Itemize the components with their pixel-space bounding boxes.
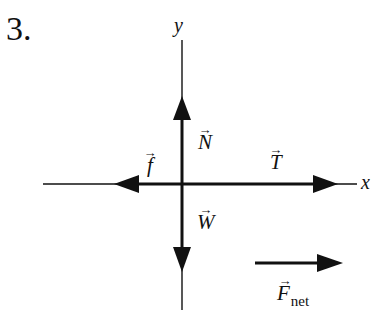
- net-force-subscript: net: [291, 293, 309, 309]
- x-axis-label: x: [361, 172, 370, 192]
- y-axis-label: y: [174, 15, 183, 35]
- vector-arrow-icon: →: [269, 143, 282, 156]
- vector-arrow-icon: →: [143, 146, 156, 159]
- tension-force-arrow: [182, 175, 338, 193]
- normal-force-arrow: [173, 96, 191, 184]
- problem-number: 3.: [6, 12, 32, 46]
- vector-arrow-icon: →: [199, 203, 212, 216]
- weight-force-label: → W: [197, 212, 215, 233]
- friction-force-arrow: [114, 175, 182, 193]
- net-force-label: → Fnet: [277, 283, 309, 309]
- weight-force-arrow: [173, 184, 191, 272]
- tension-force-label: → T: [270, 152, 282, 173]
- net-force-arrow: [255, 254, 343, 272]
- vector-arrow-icon: →: [199, 123, 212, 136]
- free-body-diagram: 3. y x → N → f → T → W → Fnet: [0, 0, 375, 328]
- free-body-diagram-graphic: [0, 0, 375, 328]
- vector-arrow-icon: →: [279, 274, 292, 287]
- normal-force-label: → N: [198, 132, 212, 153]
- friction-force-label: → f: [147, 155, 153, 176]
